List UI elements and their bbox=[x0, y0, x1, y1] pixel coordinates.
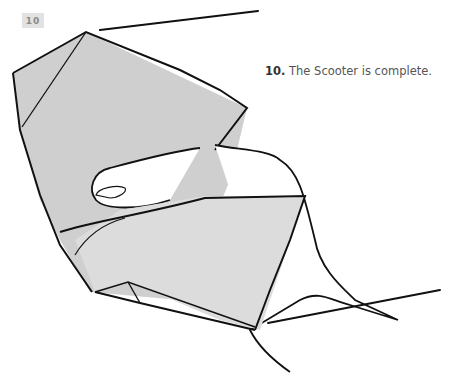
origami-scooter-illustration bbox=[0, 0, 450, 385]
motion-line-top bbox=[100, 11, 258, 30]
